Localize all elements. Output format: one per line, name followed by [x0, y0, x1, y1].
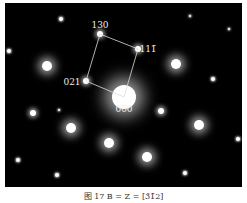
- unit-cell-outline: [0, 0, 247, 203]
- spot-label: 000: [115, 104, 132, 114]
- figure-caption: 图 17 B = Z = [3̄1̄2]: [0, 190, 247, 201]
- spot-label: 111̄: [139, 44, 156, 54]
- spot-label: 130: [91, 20, 108, 30]
- spot-label: 021: [63, 77, 80, 87]
